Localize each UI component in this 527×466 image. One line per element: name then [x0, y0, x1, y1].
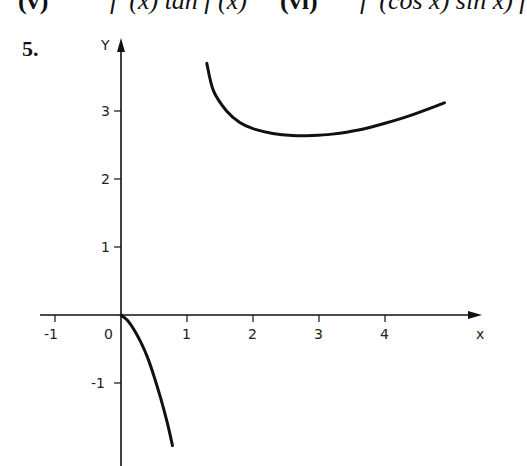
x-tick-label: 3 — [314, 326, 323, 342]
curve-branch-right — [207, 63, 445, 135]
y-tick-label: 1 — [101, 239, 110, 255]
y-axis-arrow-icon — [117, 38, 125, 52]
x-axis-arrow-icon — [468, 311, 482, 319]
y-tick-label: -1 — [91, 375, 105, 391]
x-tick-label: 2 — [248, 326, 257, 342]
y-tick-label: 2 — [101, 171, 110, 187]
curve-branch-left — [121, 315, 172, 446]
y-tick-label: 3 — [101, 103, 110, 119]
curves — [121, 63, 444, 445]
y-axis-label: Y — [100, 37, 110, 53]
axes: xY-101234321-1 — [40, 37, 484, 466]
x-tick-label: 1 — [182, 326, 191, 342]
x-tick-label: -1 — [44, 326, 58, 342]
x-tick-label: 0 — [104, 326, 113, 342]
x-axis-label: x — [476, 326, 484, 342]
x-tick-label: 4 — [380, 326, 389, 342]
